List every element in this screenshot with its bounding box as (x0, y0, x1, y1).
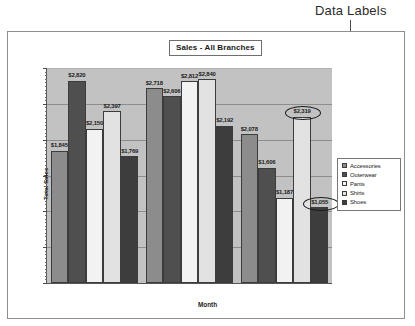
bar-data-label: $2,397 (99, 103, 125, 109)
y-axis-minor-tick (45, 136, 47, 137)
legend-label: Accessories (350, 163, 381, 169)
y-axis-minor-tick (45, 75, 47, 76)
y-axis-minor-tick (45, 254, 47, 255)
legend-label: Shirts (350, 190, 364, 196)
bar[interactable] (51, 151, 69, 283)
y-axis-minor-tick (45, 82, 47, 83)
legend-swatch-icon (342, 163, 347, 168)
y-axis-minor-tick (45, 236, 47, 237)
x-axis-title: Month (0, 301, 415, 308)
y-axis-minor-tick (45, 179, 47, 180)
bar[interactable] (198, 79, 216, 283)
y-axis-minor-tick (45, 204, 47, 205)
y-axis-tick (43, 283, 47, 284)
bar[interactable] (121, 156, 139, 283)
bar[interactable] (68, 81, 86, 283)
y-axis-tick (43, 211, 47, 212)
bar-data-label: $2,192 (212, 117, 238, 123)
y-axis-tick (43, 104, 47, 105)
y-axis-minor-tick (45, 168, 47, 169)
y-axis-minor-tick (45, 219, 47, 220)
bar[interactable] (311, 207, 329, 283)
y-axis-minor-tick (45, 86, 47, 87)
y-axis-tick (43, 176, 47, 177)
legend-item[interactable]: Shoes (340, 198, 398, 207)
y-axis-minor-tick (45, 190, 47, 191)
bar[interactable] (163, 96, 181, 283)
y-axis-minor-tick (45, 233, 47, 234)
legend-label: Shoes (350, 199, 366, 205)
y-axis-minor-tick (45, 133, 47, 134)
chart-legend[interactable]: AccessoriesOuterwearPantsShirtsShoes (337, 158, 401, 211)
legend-label: Pants (350, 181, 365, 187)
bar[interactable] (181, 81, 199, 283)
legend-item[interactable]: Pants (340, 179, 398, 188)
y-axis-minor-tick (45, 161, 47, 162)
legend-item[interactable]: Shirts (340, 189, 398, 198)
bar[interactable] (146, 88, 164, 283)
y-axis-minor-tick (45, 100, 47, 101)
bar-data-label: $1,606 (254, 159, 280, 165)
y-axis-minor-tick (45, 262, 47, 263)
y-axis-tick (43, 247, 47, 248)
y-axis-minor-tick (45, 276, 47, 277)
y-axis-minor-tick (45, 118, 47, 119)
y-axis-minor-tick (45, 258, 47, 259)
y-axis-minor-tick (45, 265, 47, 266)
legend-swatch-icon (342, 200, 347, 205)
y-axis-minor-tick (45, 154, 47, 155)
y-axis-minor-tick (45, 150, 47, 151)
legend-swatch-icon (342, 181, 347, 186)
y-axis-minor-tick (45, 251, 47, 252)
y-axis-minor-tick (45, 222, 47, 223)
bar-data-label: $2,718 (141, 80, 167, 86)
y-axis-minor-tick (45, 201, 47, 202)
y-axis-minor-tick (45, 158, 47, 159)
y-axis-minor-tick (45, 97, 47, 98)
y-axis-minor-tick (45, 72, 47, 73)
legend-item[interactable]: Accessories (340, 161, 398, 170)
plot-top-edge (47, 68, 332, 69)
y-axis-minor-tick (45, 193, 47, 194)
y-axis-minor-tick (45, 125, 47, 126)
y-axis-minor-tick (45, 172, 47, 173)
legend-item[interactable]: Outerwear (340, 170, 398, 179)
bar[interactable] (241, 134, 259, 283)
screenshot-root: Data Labels Sales - All Branches Total S… (0, 0, 415, 326)
y-axis-minor-tick (45, 93, 47, 94)
y-axis-minor-tick (45, 215, 47, 216)
legend-label: Outerwear (350, 172, 377, 178)
plot-area[interactable]: Total Sales $0$500$1,000$1,500$2,000$2,5… (46, 68, 332, 284)
y-axis-minor-tick (45, 208, 47, 209)
y-axis-minor-tick (45, 272, 47, 273)
bar-data-label: $2,840 (194, 71, 220, 77)
y-axis-minor-tick (45, 279, 47, 280)
y-axis-minor-tick (45, 122, 47, 123)
bar[interactable] (276, 198, 294, 283)
legend-swatch-icon (342, 191, 347, 196)
bar[interactable] (258, 168, 276, 283)
bar[interactable] (216, 126, 234, 283)
annotation-data-labels: Data Labels (315, 3, 387, 18)
bar-data-label: $2,820 (64, 72, 90, 78)
y-axis-minor-tick (45, 115, 47, 116)
y-axis-tick (43, 140, 47, 141)
y-axis-minor-tick (45, 240, 47, 241)
chart-title: Sales - All Branches (169, 40, 262, 56)
y-axis-minor-tick (45, 183, 47, 184)
highlight-oval (303, 197, 339, 211)
y-axis-minor-tick (45, 129, 47, 130)
bar-data-label: $2,078 (236, 126, 262, 132)
y-axis-minor-tick (45, 107, 47, 108)
highlight-oval (285, 106, 321, 120)
bar[interactable] (86, 129, 104, 283)
bar[interactable] (103, 111, 121, 283)
legend-swatch-icon (342, 172, 347, 177)
y-axis-minor-tick (45, 186, 47, 187)
y-axis-tick (43, 68, 47, 69)
y-axis-minor-tick (45, 111, 47, 112)
bar-data-label: $1,769 (117, 148, 143, 154)
y-axis-minor-tick (45, 229, 47, 230)
y-axis-minor-tick (45, 197, 47, 198)
y-axis-minor-tick (45, 269, 47, 270)
